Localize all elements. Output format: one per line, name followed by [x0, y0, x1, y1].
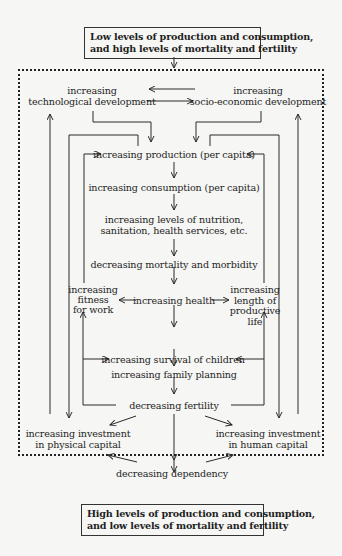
node-consumption: increasing consumption (per capita): [88, 182, 259, 193]
node-socio-dev: increasing socio-economic development: [190, 85, 326, 107]
node-length-line4: life: [230, 317, 281, 328]
node-family-planning: increasing family planning: [111, 369, 237, 380]
node-length-line3: productive: [230, 306, 281, 317]
node-socio-dev-line2: socio-economic development: [190, 96, 326, 107]
node-human-capital: increasing investment in human capital: [216, 428, 321, 450]
node-health: increasing health: [133, 295, 215, 306]
node-length: increasing length of productive life: [230, 285, 281, 327]
node-tech-dev: increasing technological development: [28, 85, 155, 107]
node-fitness-line3: for work: [68, 305, 117, 315]
node-fertility: decreasing fertility: [129, 400, 219, 411]
node-physical-capital-line1: increasing investment: [26, 428, 131, 439]
node-tech-dev-line2: technological development: [28, 96, 155, 107]
node-socio-dev-line1: increasing: [190, 85, 326, 96]
node-nutrition-line2: sanitation, health services, etc.: [101, 225, 248, 236]
node-physical-capital-line2: in physical capital: [26, 439, 131, 450]
final-state-line2: and low levels of mortality and fertilit…: [87, 520, 258, 532]
node-dependency: decreasing dependency: [116, 468, 228, 479]
node-length-line1: increasing: [230, 285, 281, 296]
node-human-capital-line1: increasing investment: [216, 428, 321, 439]
final-state-line1: High levels of production and consumptio…: [87, 508, 258, 520]
final-state-box: High levels of production and consumptio…: [81, 504, 264, 536]
node-production: increasing production (per capita): [93, 149, 255, 160]
node-mortality: decreasing mortality and morbidity: [90, 259, 257, 270]
node-tech-dev-line1: increasing: [28, 85, 155, 96]
node-fitness: increasing fitness for work: [68, 285, 117, 315]
node-human-capital-line2: in human capital: [216, 439, 321, 450]
node-nutrition: increasing levels of nutrition, sanitati…: [101, 214, 248, 236]
node-physical-capital: increasing investment in physical capita…: [26, 428, 131, 450]
node-nutrition-line1: increasing levels of nutrition,: [101, 214, 248, 225]
node-survival: increasing survival of children: [101, 354, 244, 365]
